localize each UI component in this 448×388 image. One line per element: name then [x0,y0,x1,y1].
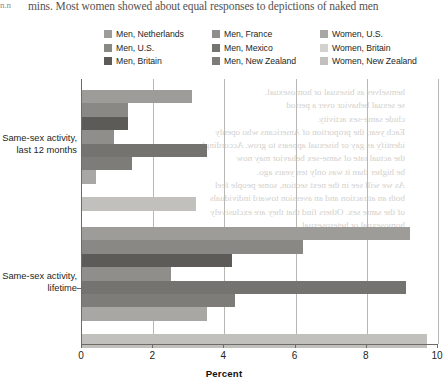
x-tick [295,344,296,348]
legend-swatch-icon [212,44,220,52]
bar-last12months-men-france [82,130,114,143]
bar-last12months-men-mexico [82,144,207,157]
x-tick-label: 2 [149,350,155,361]
legend-item-men-new-zealand: Men, New Zealand [212,54,320,68]
bar-lifetime-men-new-zealand [82,294,235,307]
legend-item-men-us: Men, U.S. [104,41,212,55]
legend-item-women-britain: Women, Britain [320,41,448,55]
bar-last12months-men-britain [82,117,128,130]
legend-label: Women, New Zealand [332,56,417,66]
x-tick [152,344,153,348]
x-axis-title: Percent [0,368,448,379]
legend-swatch-icon [104,44,112,52]
y-category-line1: Same-sex activity, [0,133,77,145]
y-category-line1: Same-sex activity, [0,271,77,283]
bar-lifetime-women-new-zealand [82,334,427,347]
running-head-text: mins. Most women showed about equal resp… [28,0,379,12]
y-category-line2: lifetime [0,283,77,295]
legend-label: Men, Netherlands [116,29,184,39]
legend-swatch-icon [212,30,220,38]
bar-lifetime-women-u-s [82,307,207,320]
legend-swatch-icon [320,30,328,38]
legend-item-men-mexico: Men, Mexico [212,41,320,55]
legend-item-women-new-zealand: Women, New Zealand [320,54,448,68]
legend-swatch-icon [320,44,328,52]
bar-lifetime-men-france [82,267,171,280]
chart-legend: Men, NetherlandsMen, FranceWomen, U.S.Me… [104,27,448,68]
gridline [438,79,439,344]
group-separator-tick [77,288,82,289]
x-tick-label: 8 [363,350,369,361]
legend-item-men-britain: Men, Britain [104,54,212,68]
bar-last12months-men-netherlands [82,90,192,103]
legend-label: Men, Britain [116,56,162,66]
bars-layer [82,79,438,344]
bar-lifetime-men-mexico [82,281,406,294]
y-category-label-last-12-months: Same-sex activity,last 12 months [0,133,77,156]
x-tick-label: 0 [78,350,84,361]
legend-swatch-icon [212,57,220,65]
x-axis-line [81,344,438,345]
legend-label: Men, Mexico [224,43,273,53]
bar-last12months-men-u-s [82,103,128,116]
bar-lifetime-men-u-s [82,240,303,253]
x-tick-label: 10 [431,350,442,361]
bar-last12months-women-u-s [82,170,96,183]
legend-item-women-us: Women, U.S. [320,27,448,41]
legend-label: Men, U.S. [116,43,154,53]
legend-swatch-icon [320,57,328,65]
x-tick [81,344,82,348]
legend-label: Women, Britain [332,43,391,53]
y-category-label-lifetime: Same-sex activity,lifetime [0,271,77,294]
x-tick [366,344,367,348]
x-tick-label: 6 [292,350,298,361]
x-tick [437,344,438,348]
legend-swatch-icon [104,30,112,38]
x-tick [223,344,224,348]
bar-last12months-men-new-zealand [82,157,132,170]
bar-lifetime-men-netherlands [82,227,410,240]
legend-item-men-netherlands: Men, Netherlands [104,27,212,41]
legend-item-men-france: Men, France [212,27,320,41]
legend-label: Men, New Zealand [224,56,296,66]
y-category-line2: last 12 months [0,145,77,157]
page-folio: n.n [0,0,28,10]
plot-area [81,79,438,344]
bar-last12months-women-new-zealand [82,197,196,210]
legend-swatch-icon [104,57,112,65]
running-head: n.nmins. Most women showed about equal r… [0,0,448,16]
bar-lifetime-men-britain [82,254,232,267]
legend-label: Women, U.S. [332,29,383,39]
x-tick-label: 4 [221,350,227,361]
legend-label: Men, France [224,29,272,39]
